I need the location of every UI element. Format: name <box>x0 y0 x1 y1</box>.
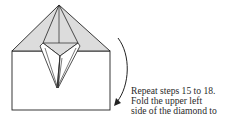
instruction-caption: Repeat steps 15 to 18. Fold the upper le… <box>131 86 237 117</box>
arrow-head-icon <box>114 98 121 106</box>
caption-line-3: side of the diamond to <box>131 106 237 116</box>
fold-arrow-icon <box>117 38 127 102</box>
